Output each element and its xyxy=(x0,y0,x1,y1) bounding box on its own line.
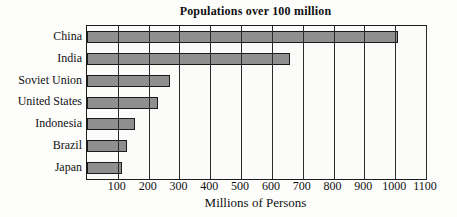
x-tick-label-1000: 1000 xyxy=(382,180,406,193)
gridline-500 xyxy=(241,26,242,179)
category-label-china: China xyxy=(0,30,82,42)
x-tick-label-700: 700 xyxy=(293,180,311,193)
x-tick-label-400: 400 xyxy=(200,180,218,193)
gridline-700 xyxy=(303,26,304,179)
plot-area xyxy=(86,25,427,180)
gridline-1000 xyxy=(395,26,396,179)
category-label-brazil: Brazil xyxy=(0,139,82,151)
x-tick-label-300: 300 xyxy=(169,180,187,193)
x-tick-label-500: 500 xyxy=(231,180,249,193)
bar-china xyxy=(87,31,398,43)
x-tick-label-800: 800 xyxy=(324,180,342,193)
x-axis-ticks: 10020030040050060070080090010001100 xyxy=(86,180,425,194)
gridline-900 xyxy=(364,26,365,179)
x-tick-label-200: 200 xyxy=(139,180,157,193)
category-label-japan: Japan xyxy=(0,161,82,173)
bar-brazil xyxy=(87,140,127,152)
gridline-800 xyxy=(334,26,335,179)
x-tick-label-900: 900 xyxy=(354,180,372,193)
x-tick-label-1100: 1100 xyxy=(413,180,437,193)
x-tick-label-600: 600 xyxy=(262,180,280,193)
category-label-indonesia: Indonesia xyxy=(0,117,82,129)
gridline-200 xyxy=(149,26,150,179)
gridline-100 xyxy=(118,26,119,179)
category-label-soviet-union: Soviet Union xyxy=(0,74,82,86)
gridline-1100 xyxy=(426,26,427,179)
chart-title: Populations over 100 million xyxy=(86,4,425,19)
population-bar-chart: Populations over 100 million ChinaIndiaS… xyxy=(0,0,457,217)
gridline-300 xyxy=(179,26,180,179)
bar-soviet-union xyxy=(87,75,170,87)
x-axis-label: Millions of Persons xyxy=(86,195,425,211)
gridline-600 xyxy=(272,26,273,179)
category-label-united-states: United States xyxy=(0,95,82,107)
y-axis-labels: ChinaIndiaSoviet UnionUnited StatesIndon… xyxy=(0,25,82,178)
x-tick-label-100: 100 xyxy=(108,180,126,193)
bar-indonesia xyxy=(87,118,135,130)
bar-united-states xyxy=(87,97,158,109)
category-label-india: India xyxy=(0,52,82,64)
gridline-400 xyxy=(210,26,211,179)
